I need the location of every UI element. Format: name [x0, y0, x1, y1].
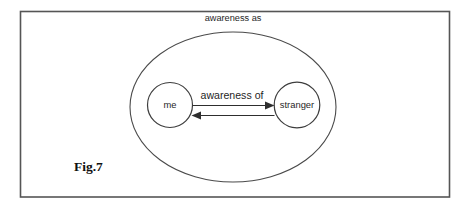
node-stranger-label: stranger — [280, 99, 314, 110]
node-me-label: me — [163, 99, 176, 110]
awareness-diagram: awareness as me stranger awareness of Fi… — [0, 0, 465, 210]
relation-label: awareness of — [200, 89, 263, 101]
figure-caption: Fig.7 — [74, 159, 103, 174]
figure-container: awareness as me stranger awareness of Fi… — [0, 0, 465, 210]
outer-set-label: awareness as — [205, 13, 262, 23]
